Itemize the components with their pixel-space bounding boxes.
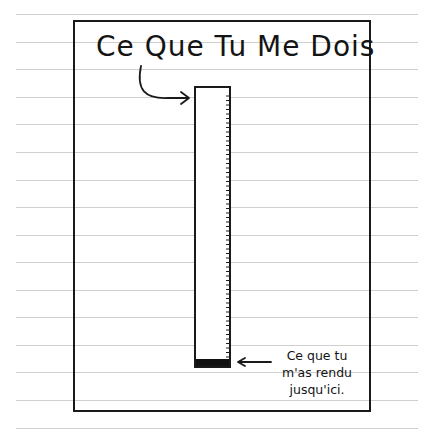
note-line-1: Ce que tu [272,347,362,364]
title-arrow-icon [140,66,188,98]
repaid-note: Ce que tu m'as rendu jusqu'ici. [272,347,362,398]
annotation-arrows [0,0,429,442]
note-line-2: m'as rendu [272,364,362,381]
ruler-ticks-icon [226,96,230,357]
note-line-3: jusqu'ici. [272,381,362,398]
